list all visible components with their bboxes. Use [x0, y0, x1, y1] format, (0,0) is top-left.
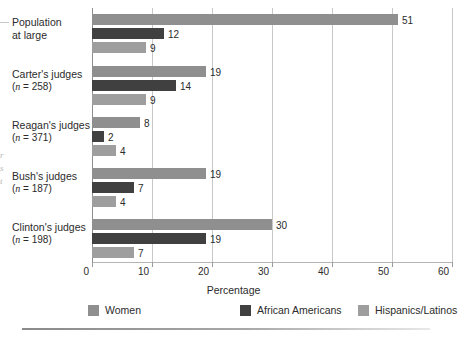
margin-glyph-1: r — [0, 150, 12, 161]
category-label-population-at-large: Population at large — [12, 16, 90, 41]
margin-glyph-2: s — [0, 163, 12, 174]
x-tick-label-10: 10 — [138, 266, 152, 277]
bar-chart-figure: r s t Population at large Carter's judge… — [0, 0, 467, 337]
plot-area: 51 12 9 19 14 9 8 — [92, 8, 452, 262]
category-label-line1: Bush's judges — [12, 170, 90, 183]
bar-women: 51 — [92, 14, 398, 25]
x-tick-label-20: 20 — [198, 266, 212, 277]
bar-hispanics-latinos: 4 — [92, 196, 116, 207]
bar-value-label: 19 — [210, 66, 221, 77]
bar-value-label: 19 — [210, 233, 221, 244]
margin-glyph-3: t — [0, 176, 12, 187]
category-label-line2: at large — [12, 29, 90, 42]
tick-mark-60 — [452, 262, 453, 267]
category-label-line1: Reagan's judges — [12, 119, 90, 132]
category-label-reagans-judges: Reagan's judges (n = 371) — [12, 119, 90, 144]
bar-value-label: 7 — [138, 182, 144, 193]
legend-swatch-icon-african-americans — [240, 305, 251, 316]
bar-african-americans: 19 — [92, 233, 206, 244]
gridline-40 — [332, 8, 333, 262]
bar-hispanics-latinos: 9 — [92, 42, 146, 53]
bar-women: 19 — [92, 66, 206, 77]
bar-value-label: 4 — [120, 196, 126, 207]
bar-women: 19 — [92, 168, 206, 179]
gridline-60 — [452, 8, 453, 262]
bar-value-label: 2 — [108, 131, 114, 142]
category-label-n-value: (n = 198) — [12, 234, 90, 247]
x-tick-label-30: 30 — [258, 266, 272, 277]
tick-mark-20 — [212, 262, 213, 267]
legend-item-women: Women — [88, 305, 141, 316]
category-label-carters-judges: Carter's judges (n = 258) — [12, 68, 90, 93]
bar-value-label: 30 — [276, 219, 287, 230]
x-tick-label-50: 50 — [378, 266, 392, 277]
bar-hispanics-latinos: 7 — [92, 247, 134, 258]
margin-dash-decoration — [0, 22, 9, 23]
x-axis-title: Percentage — [0, 284, 467, 296]
tick-mark-40 — [332, 262, 333, 267]
bar-value-label: 12 — [168, 28, 179, 39]
bar-african-americans: 14 — [92, 80, 176, 91]
legend-swatch-icon-women — [88, 305, 99, 316]
bar-hispanics-latinos: 9 — [92, 94, 146, 105]
bar-hispanics-latinos: 4 — [92, 145, 116, 156]
gridline-50 — [392, 8, 393, 262]
category-label-line1: Carter's judges — [12, 68, 90, 81]
legend-item-hispanics-latinos: Hispanics/Latinos — [358, 305, 457, 316]
tick-mark-0 — [92, 262, 93, 267]
bar-value-label: 9 — [150, 42, 156, 53]
bottom-divider-rule — [22, 328, 430, 330]
category-label-line1: Clinton's judges — [12, 221, 90, 234]
x-tick-label-40: 40 — [318, 266, 332, 277]
bar-african-americans: 7 — [92, 182, 134, 193]
category-label-n-value: (n = 371) — [12, 132, 90, 145]
category-label-line1: Population — [12, 16, 90, 29]
bar-value-label: 4 — [120, 145, 126, 156]
tick-mark-30 — [272, 262, 273, 267]
category-label-clintons-judges: Clinton's judges (n = 198) — [12, 221, 90, 246]
legend-item-african-americans: African Americans — [240, 305, 342, 316]
tick-mark-10 — [152, 262, 153, 267]
category-label-bushs-judges: Bush's judges (n = 187) — [12, 170, 90, 195]
bar-value-label: 14 — [180, 80, 191, 91]
gridline-30 — [272, 8, 273, 262]
tick-mark-50 — [392, 262, 393, 267]
chart-legend: Women African Americans Hispanics/Latino… — [0, 305, 467, 321]
legend-label-hispanics-latinos: Hispanics/Latinos — [375, 305, 457, 316]
bar-value-label: 51 — [402, 14, 413, 25]
bar-value-label: 9 — [150, 94, 156, 105]
legend-swatch-icon-hispanics-latinos — [358, 305, 369, 316]
legend-label-african-americans: African Americans — [257, 305, 342, 316]
x-tick-label-0: 0 — [83, 266, 92, 277]
x-tick-label-60: 60 — [438, 266, 452, 277]
category-label-n-value: (n = 187) — [12, 183, 90, 196]
bar-value-label: 7 — [138, 247, 144, 258]
bar-women: 8 — [92, 117, 140, 128]
bar-women: 30 — [92, 219, 272, 230]
bar-value-label: 8 — [144, 117, 150, 128]
category-label-n-value: (n = 258) — [12, 81, 90, 94]
bar-value-label: 19 — [210, 168, 221, 179]
legend-label-women: Women — [105, 305, 141, 316]
bar-african-americans: 2 — [92, 131, 104, 142]
bar-african-americans: 12 — [92, 28, 164, 39]
